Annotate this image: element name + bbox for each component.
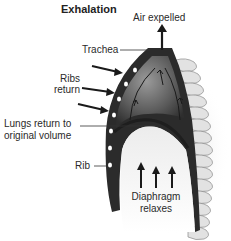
exhalation-diagram: Exhalation Air expelled Trachea Ribs ret… <box>0 0 231 241</box>
label-air-expelled: Air expelled <box>133 12 185 23</box>
diagram-title: Exhalation <box>61 4 117 15</box>
label-diaphragm-line2: relaxes <box>126 203 186 214</box>
label-lungs-line2: original volume <box>4 130 71 141</box>
label-ribs-return-line1: Ribs <box>56 73 80 84</box>
label-ribs-return-line2: return <box>46 84 80 95</box>
air-expelled-arrow-icon <box>157 24 167 50</box>
label-rib: Rib <box>75 160 90 171</box>
label-lungs-line1: Lungs return to <box>4 118 71 129</box>
label-diaphragm-line1: Diaphragm <box>126 191 186 202</box>
label-trachea: Trachea <box>82 44 118 55</box>
